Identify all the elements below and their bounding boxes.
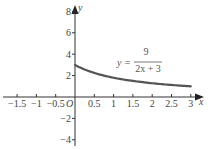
x-tick-label: −0.5	[47, 98, 65, 109]
x-tick-label: 1.5	[127, 98, 140, 109]
y-tick-label: −4	[60, 134, 71, 145]
y-tick-label: 4	[66, 49, 71, 60]
y-ticks: 8642−2−4	[60, 6, 75, 145]
x-tick-label: −1.5	[8, 98, 26, 109]
y-tick-label: 2	[66, 70, 71, 81]
x-tick-label: 3	[188, 98, 193, 109]
formula-numerator: 9	[144, 46, 149, 57]
x-tick-label: 1	[111, 98, 116, 109]
y-tick-label: 8	[66, 6, 71, 17]
x-axis-label: x	[198, 96, 204, 107]
x-tick-label: 0.5	[88, 98, 101, 109]
y-axis-label: y	[77, 2, 83, 13]
x-tick-label: −1	[31, 98, 42, 109]
x-tick-label: 2	[150, 98, 155, 109]
chart: −1.5−1−0.50.511.522.53 8642−2−4 x y O y …	[0, 0, 208, 149]
formula-lhs: y =	[116, 57, 131, 68]
y-tick-label: 6	[66, 27, 71, 38]
formula-denominator: 2x + 3	[135, 63, 161, 74]
curve-series	[75, 65, 191, 86]
x-ticks: −1.5−1−0.50.511.522.53	[8, 94, 193, 109]
origin-label: O	[66, 98, 73, 109]
formula-annotation: y = 9 2x + 3	[116, 46, 162, 74]
y-tick-label: −2	[60, 113, 71, 124]
x-tick-label: 2.5	[165, 98, 178, 109]
